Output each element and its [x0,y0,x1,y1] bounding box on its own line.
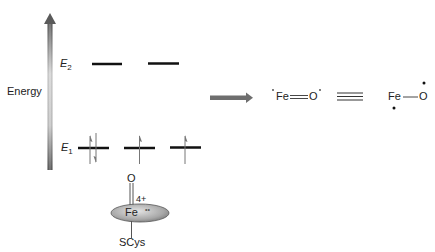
energy-axis-arrow [44,13,56,170]
equivalence-icon [337,93,363,100]
spin-up-icon [185,135,188,164]
spin-up-icon [140,135,143,164]
heme-model [111,183,169,238]
radical-dot-icon [423,82,426,85]
e1-label: E1 [61,141,73,156]
reaction-arrow [210,93,253,104]
right-fe-atom: Fe [388,90,401,102]
left-o-atom: O [309,90,318,102]
e2-label: E2 [60,57,72,72]
diagram-canvas [0,0,435,252]
left-fe-atom: Fe [276,90,289,102]
right-o-atom: O [419,90,428,102]
porphyrin-disc [111,204,169,222]
heme-axial-ligand: SCys [119,236,145,248]
e2-levels [92,64,179,65]
heme-charge: 4+ [136,194,146,204]
heme-oxo-atom: O [127,172,136,184]
radical-dot-icon [272,89,274,91]
heme-radical-mark: •• [145,206,150,213]
radical-dot-icon [393,107,396,110]
heme-metal: Fe [125,206,138,218]
energy-axis-label: Energy [7,85,42,97]
radical-dot-icon [319,89,321,91]
spin-up-icon [90,135,93,164]
double-bond [290,96,308,99]
